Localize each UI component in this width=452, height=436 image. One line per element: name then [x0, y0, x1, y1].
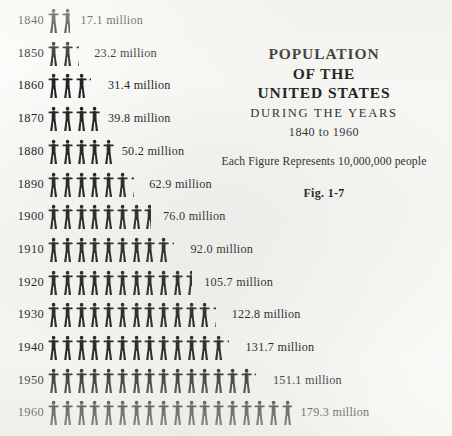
person-icon [103, 139, 114, 164]
figure-strip [48, 106, 103, 132]
person-icon [131, 302, 142, 327]
person-icon-partial [76, 41, 80, 66]
figure-strip [48, 204, 158, 230]
person-icon [103, 400, 114, 425]
person-icon [186, 302, 197, 327]
person-icon [89, 400, 100, 425]
year-label: 1950 [6, 373, 44, 388]
person-icon [76, 139, 87, 164]
person-icon [241, 400, 252, 425]
value-label: 50.2 million [122, 144, 185, 159]
person-icon [172, 335, 183, 360]
person-icon [186, 335, 197, 360]
person-icon [62, 237, 73, 262]
person-icon [103, 270, 114, 295]
person-icon [76, 335, 87, 360]
person-icon [76, 400, 87, 425]
person-icon [62, 41, 73, 66]
year-label: 1920 [6, 275, 44, 290]
value-label: 151.1 million [273, 373, 342, 388]
year-label: 1860 [6, 78, 44, 93]
person-icon [48, 270, 59, 295]
person-icon [227, 400, 238, 425]
person-icon [131, 368, 142, 393]
person-icon [117, 172, 128, 197]
person-icon [172, 368, 183, 393]
value-label: 105.7 million [204, 275, 273, 290]
value-label: 122.8 million [232, 307, 301, 322]
value-label: 92.0 million [191, 242, 254, 257]
figure-strip [48, 400, 296, 426]
person-icon [89, 335, 100, 360]
person-icon [199, 400, 210, 425]
person-icon [89, 139, 100, 164]
person-icon [89, 368, 100, 393]
legend-note: Each Figure Represents 10,000,000 people [200, 155, 448, 168]
person-icon-partial [89, 73, 91, 98]
person-icon [186, 400, 197, 425]
person-icon-partial [254, 368, 256, 393]
title-year-range: 1840 to 1960 [200, 123, 448, 141]
person-icon [48, 41, 59, 66]
year-label: 1900 [6, 209, 44, 224]
person-icon [199, 368, 210, 393]
person-icon [131, 270, 142, 295]
person-icon [103, 302, 114, 327]
person-icon [76, 73, 87, 98]
person-icon [172, 302, 183, 327]
chart-row: 1930122.8 million [0, 300, 452, 330]
person-icon [62, 400, 73, 425]
person-icon-partial [282, 400, 292, 425]
person-icon [103, 335, 114, 360]
person-icon [62, 270, 73, 295]
figure-strip [48, 368, 268, 394]
figure-number: Fig. 1-7 [200, 186, 448, 201]
person-icon [48, 172, 59, 197]
person-icon [48, 139, 59, 164]
person-icon [62, 204, 73, 229]
person-icon [213, 335, 224, 360]
person-icon [144, 302, 155, 327]
value-label: 76.0 million [163, 209, 226, 224]
person-icon [76, 106, 87, 131]
value-label: 23.2 million [94, 46, 157, 61]
person-icon [76, 270, 87, 295]
chart-row: 1940131.7 million [0, 333, 452, 363]
title-line-united-states: UNITED STATES [200, 83, 448, 103]
year-label: 1960 [6, 405, 44, 420]
person-icon [103, 204, 114, 229]
person-icon [158, 335, 169, 360]
title-line-population: POPULATION [200, 44, 448, 64]
person-icon [131, 204, 142, 229]
figure-strip [48, 73, 103, 99]
person-icon [48, 106, 59, 131]
year-label: 1890 [6, 177, 44, 192]
person-icon [144, 400, 155, 425]
title-line-of-the: OF THE [200, 64, 448, 84]
person-icon [144, 335, 155, 360]
person-icon [172, 400, 183, 425]
person-icon [62, 139, 73, 164]
person-icon [213, 400, 224, 425]
person-icon-partial [186, 270, 192, 295]
person-icon [131, 400, 142, 425]
person-icon [76, 237, 87, 262]
person-icon [117, 237, 128, 262]
person-icon [48, 237, 59, 262]
person-icon [117, 335, 128, 360]
person-icon [199, 302, 210, 327]
person-icon-partial [144, 204, 151, 229]
person-icon [117, 204, 128, 229]
person-icon [103, 368, 114, 393]
person-icon [89, 237, 100, 262]
figure-strip [48, 139, 117, 165]
person-icon [144, 237, 155, 262]
person-icon [103, 237, 114, 262]
value-label: 39.8 million [108, 111, 171, 126]
person-icon-partial [89, 106, 100, 131]
person-icon [158, 400, 169, 425]
year-label: 1930 [6, 307, 44, 322]
chart-row: 190076.0 million [0, 202, 452, 232]
person-icon [144, 368, 155, 393]
chart-row: 184017.1 million [0, 6, 452, 36]
